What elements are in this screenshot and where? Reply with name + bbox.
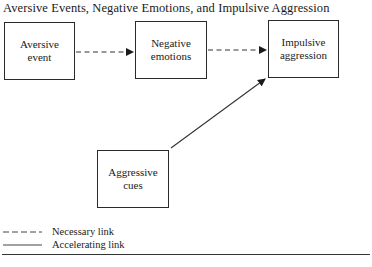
node-label-line2: emotions [151, 50, 191, 63]
node-label-line1: Impulsive [280, 36, 327, 49]
node-label-line2: cues [108, 179, 158, 192]
node-negative-emotions: Negativeemotions [135, 21, 207, 79]
node-label-line2: event [20, 51, 59, 64]
legend-accelerating-label: Accelerating link [52, 239, 125, 250]
node-label-line1: Aversive [20, 38, 59, 51]
node-aggressive-cues: Aggressivecues [97, 150, 169, 208]
node-label-line1: Aggressive [108, 166, 158, 179]
edge-cues-to-impulsive [171, 79, 265, 148]
node-label-line2: aggression [280, 49, 327, 62]
legend-necessary-label: Necessary link [52, 226, 114, 237]
node-aversive-event: Aversiveevent [4, 22, 75, 80]
node-impulsive-aggression: Impulsiveaggression [268, 20, 339, 78]
bottom-rule [2, 254, 370, 255]
node-label-line1: Negative [151, 37, 191, 50]
